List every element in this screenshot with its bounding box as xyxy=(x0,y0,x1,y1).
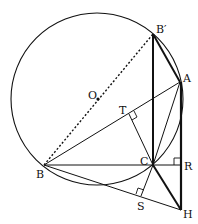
segment-b-a xyxy=(44,82,180,165)
label-s: S xyxy=(137,200,145,213)
label-a: A xyxy=(182,72,192,85)
label-o: O xyxy=(88,89,97,102)
segment-b-h xyxy=(44,165,181,210)
label-c: C xyxy=(140,155,148,168)
label-h: H xyxy=(183,208,193,221)
label-bprime: B′ xyxy=(156,23,167,36)
label-b: B xyxy=(36,168,44,181)
right-angle-t xyxy=(132,111,137,120)
segment-c-a xyxy=(153,82,180,165)
label-r: R xyxy=(184,160,193,173)
geometry-diagram: O B′ A B C R H T S xyxy=(0,0,198,224)
label-t: T xyxy=(119,104,127,117)
segment-bprime-a xyxy=(153,34,180,82)
segment-c-h xyxy=(153,165,181,210)
segment-c-s xyxy=(141,165,153,196)
